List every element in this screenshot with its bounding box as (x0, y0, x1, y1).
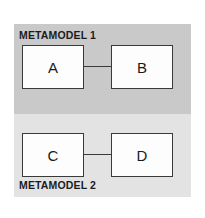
diagram-canvas: METAMODEL 1 A B C D METAMODEL 2 (0, 0, 205, 218)
element-box-b[interactable]: B (111, 45, 173, 89)
element-box-a-label: A (48, 59, 58, 76)
connector-c-to-d (84, 154, 111, 155)
element-box-d[interactable]: D (111, 133, 173, 177)
element-box-d-label: D (137, 147, 148, 164)
element-box-a[interactable]: A (22, 45, 84, 89)
panel-label-metamodel-1: METAMODEL 1 (19, 30, 96, 41)
element-box-c-label: C (48, 147, 59, 164)
element-box-b-label: B (137, 59, 147, 76)
connector-a-to-b (84, 66, 111, 67)
element-box-c[interactable]: C (22, 133, 84, 177)
panel-label-metamodel-2: METAMODEL 2 (19, 180, 96, 191)
